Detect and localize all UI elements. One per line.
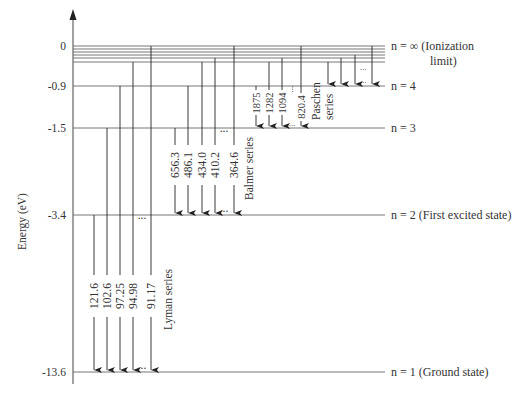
paschen-ellipsis-bottom: ... [289, 118, 296, 128]
lyman-labels: 121.6 102.6 97.25 94.98 91.17 ... ... Ly… [88, 209, 175, 371]
lyman-ellipsis-bottom: ... [138, 359, 147, 371]
paschen-ellipsis-top: ... [285, 86, 295, 93]
tick-neg-0-9: -0.9 [48, 80, 66, 92]
tick-neg-13-6: -13.6 [42, 366, 66, 378]
balmer-labels: 656.3 486.1 434.0 410.2 364.6 ... ... Ba… [169, 122, 255, 214]
level-label-n1: n = 1 (Ground state) [391, 365, 488, 379]
level-label-n2: n = 2 (First excited state) [391, 208, 511, 222]
balmer-wavelength-1: 656.3 [169, 152, 181, 178]
brackett-ellipsis-bottom: ... [360, 75, 367, 85]
paschen-wavelength-4: 820.4 [296, 94, 307, 118]
balmer-wavelength-5: 364.6 [228, 152, 240, 178]
lyman-wavelength-1: 121.6 [88, 283, 100, 309]
tick-neg-3-4: -3.4 [48, 209, 66, 221]
paschen-labels: 1875 1282 1094 820.4 ... ... Paschen ser… [251, 82, 335, 128]
level-label-n3: n = 3 [391, 121, 416, 135]
axis-title: Energy (eV) [16, 193, 29, 250]
paschen-wavelength-1: 1875 [251, 93, 262, 114]
level-label-inf: n = ∞ (Ionization [391, 39, 474, 53]
energy-axis: Energy (eV) 0 -0.9 -1.5 -3.4 -13.6 [16, 9, 77, 384]
brackett-labels: ... ... [360, 62, 367, 85]
lyman-wavelength-3: 97.25 [114, 283, 126, 309]
level-label-inf-line2: limit) [430, 54, 457, 68]
energy-level-diagram: Energy (eV) 0 -0.9 -1.5 -3.4 -13.6 n = ∞… [0, 0, 531, 395]
balmer-wavelength-3: 434.0 [196, 152, 208, 178]
balmer-ellipsis-top: ... [220, 122, 229, 134]
lyman-series [94, 46, 151, 370]
balmer-wavelength-2: 486.1 [182, 152, 194, 178]
balmer-series-label: Balmer series [243, 137, 255, 200]
balmer-ellipsis-bottom: ... [220, 202, 229, 214]
balmer-wavelength-4: 410.2 [209, 152, 221, 178]
tick-0: 0 [60, 40, 66, 52]
paschen-series-label-2: series [323, 93, 335, 120]
paschen-wavelength-2: 1282 [264, 93, 275, 114]
axis-arrow-icon [70, 9, 77, 20]
lyman-series-label: Lyman series [162, 268, 175, 330]
lyman-wavelength-2: 102.6 [101, 283, 113, 309]
level-label-n4: n = 4 [391, 79, 416, 93]
lyman-ellipsis-top: ... [138, 209, 147, 221]
paschen-series-label-1: Paschen [310, 82, 322, 120]
level-labels: n = ∞ (Ionization limit) n = 4 n = 3 n =… [391, 39, 511, 379]
paschen-wavelength-3: 1094 [277, 92, 288, 114]
brackett-ellipsis-top: ... [360, 62, 367, 72]
lyman-wavelength-4: 94.98 [127, 283, 139, 309]
tick-neg-1-5: -1.5 [48, 122, 66, 134]
lyman-wavelength-5: 91.17 [145, 283, 157, 309]
